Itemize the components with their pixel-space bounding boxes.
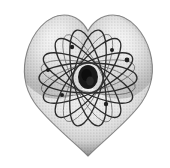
electron-4 — [104, 102, 108, 106]
electron-3 — [60, 93, 64, 97]
electron-2 — [70, 45, 74, 49]
electron-6 — [110, 48, 114, 52]
nucleus — [78, 65, 98, 89]
electron-5 — [46, 68, 50, 72]
electron-1 — [125, 58, 130, 63]
image-canvas: Atom Heart — [0, 0, 170, 168]
atom-heart-illustration — [0, 0, 170, 168]
